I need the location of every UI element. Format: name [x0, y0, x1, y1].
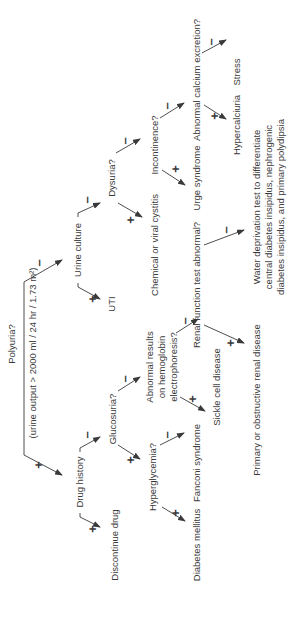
urine-culture-node: Urine culture	[72, 223, 84, 277]
negative-sign: –	[32, 259, 45, 266]
negative-sign: –	[118, 375, 131, 382]
flowchart-connectors	[0, 0, 288, 625]
positive-sign: +	[32, 461, 45, 469]
flowchart-canvas: Polyuria? (urine output > 2000 ml / 24 h…	[0, 0, 288, 625]
hypercalciuria-node: Hypercalciuria	[231, 95, 243, 155]
dysuria-node: Dysuria?	[106, 159, 118, 197]
drug-history-node: Drug history	[74, 456, 86, 507]
positive-sign: +	[169, 509, 182, 517]
polyuria-question: Polyuria?	[6, 324, 18, 364]
renal-disease-node: Primary or obstructive renal disease	[251, 324, 263, 476]
hyperglycemia-node: Hyperglycemia?	[147, 443, 159, 511]
water-deprivation-line-2: central diabetes insipidus, nephrogenic	[263, 125, 275, 289]
calcium-excretion-node: Abnormal calcium excretion?	[191, 19, 203, 141]
hemoglobin-line-2: on hemoglobin	[156, 336, 168, 398]
polyuria-criteria: (urine output > 2000 ml / 24 hr / 1.73 m…	[27, 268, 39, 439]
negative-sign: –	[204, 38, 217, 45]
urge-syndrome-node: Urge syndrome	[191, 146, 203, 211]
renal-function-node: Renal function test abnormal?	[191, 222, 203, 348]
positive-sign: +	[86, 295, 99, 303]
hemoglobin-line-3: electrophoresis?	[168, 332, 180, 402]
negative-sign: –	[178, 317, 191, 324]
positive-sign: +	[124, 216, 137, 224]
cystitis-node: Chemical or viral cystitis	[149, 194, 161, 296]
diabetes-mellitus-node: Diabetes mellitus	[191, 509, 203, 581]
fanconi-node: Fanconi syndrome	[191, 424, 203, 502]
uti-node: UTI	[106, 296, 118, 311]
negative-sign: –	[219, 226, 232, 233]
positive-sign: +	[169, 165, 182, 173]
negative-sign: –	[160, 102, 173, 109]
negative-sign: –	[80, 196, 93, 203]
glucosuria-node: Glucosuria?	[107, 394, 119, 445]
incontinence-node: Incontinence?	[149, 115, 161, 174]
hemoglobin-line-1: Abnormal results	[144, 331, 156, 402]
water-deprivation-line-3: diabetes insipidus, and primary polydips…	[275, 119, 287, 295]
negative-sign: –	[118, 137, 131, 144]
positive-sign: +	[86, 525, 99, 533]
positive-sign: +	[208, 112, 221, 120]
negative-sign: –	[160, 431, 173, 438]
water-deprivation-line-1: Water deprivation test to differentiate	[251, 130, 263, 285]
stress-node: Stress	[231, 59, 243, 86]
positive-sign: +	[124, 456, 137, 464]
sickle-cell-node: Sickle cell disease	[211, 348, 223, 426]
negative-sign: –	[80, 431, 93, 438]
positive-sign: +	[186, 395, 199, 403]
discontinue-drug-node: Discontinue drug	[109, 509, 121, 580]
positive-sign: +	[224, 339, 237, 347]
